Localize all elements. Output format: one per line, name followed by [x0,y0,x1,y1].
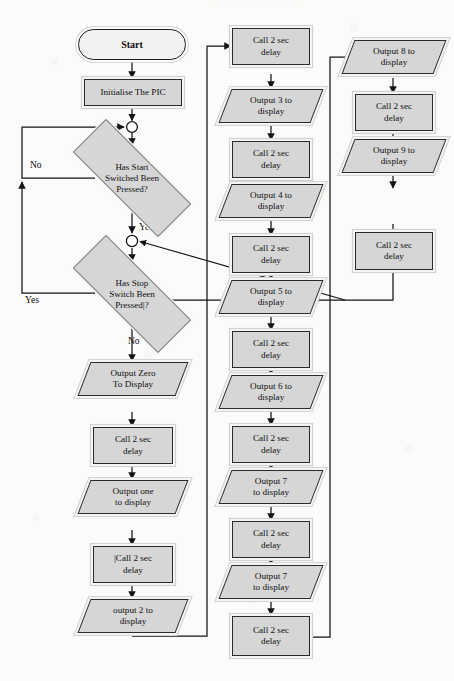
delay-middle-last-line2: delay [261,636,281,646]
delay-e-line2: delay [261,255,281,265]
node-output-six-label: Output 6 to display [248,381,294,404]
delay-a-line2: delay [123,446,143,456]
output-one-line2: to display [115,497,151,507]
node-output-one[interactable]: Output one to display [84,480,182,514]
junction-node-1 [127,122,138,133]
node-delay-b[interactable]: |Call 2 sec delay [93,546,173,583]
delay-i-line1: Call 2 sec [376,101,412,111]
node-decision-stop-switch-label: Has Stop Switch Been Pressed|? [107,278,157,311]
node-output-four-label: Output 4 to display [248,190,294,213]
node-delay-i-label: Call 2 sec delay [374,101,414,124]
node-delay-middle-last-label: Call 2 sec delay [251,625,291,648]
node-output-eight[interactable]: Output 8 to display [348,40,440,74]
node-decision-stop-switch[interactable]: Has Stop Switch Been Pressed|? [47,261,217,327]
node-delay-g[interactable]: Call 2 sec delay [232,426,310,463]
delay-c-line2: delay [261,47,281,57]
node-delay-c[interactable]: Call 2 sec delay [232,28,310,65]
node-delay-f-label: Call 2 sec delay [251,338,291,361]
output-seven-line2: to display [253,487,289,497]
output-seven-b-line2: to display [253,582,289,592]
output-seven-b-line1: Output 7 [255,571,287,581]
node-delay-a-label: Call 2 sec delay [113,434,153,457]
node-delay-d-label: Call 2 sec delay [251,148,291,171]
decision-start-line2: Switched Been [105,173,159,183]
delay-f-line1: Call 2 sec [253,338,289,348]
node-delay-j[interactable]: Call 2 sec delay [355,232,433,270]
edge-label-start-no: No [30,160,42,170]
node-decision-start-switch[interactable]: Has Start Switched Been Pressed? [47,145,217,211]
decision-start-line3: Pressed? [116,184,148,194]
node-delay-i[interactable]: Call 2 sec delay [355,94,433,131]
output-two-line1: output 2 to [113,605,153,615]
delay-d-line2: delay [261,160,281,170]
output-nine-line2: display [381,156,408,166]
output-four-line2: display [258,201,285,211]
node-output-seven[interactable]: Output 7 to display [225,470,317,504]
node-output-five[interactable]: Output 5 to display [225,280,317,314]
junction-node-2 [126,235,137,246]
node-decision-start-switch-label: Has Start Switched Been Pressed? [103,162,161,195]
flowchart-page: - - -- - ---- -- - - --- -- - [0,0,454,681]
output-four-line1: Output 4 to [250,190,292,200]
node-initialise-pic[interactable]: Initialise The PIC [84,79,182,106]
delay-b-line2: delay [123,565,143,575]
output-three-line2: display [258,106,285,116]
node-delay-g-label: Call 2 sec delay [251,433,291,456]
node-start[interactable]: Start [78,29,186,60]
delay-g-line1: Call 2 sec [253,433,289,443]
decision-stop-line1: Has Stop [116,278,149,288]
node-delay-d[interactable]: Call 2 sec delay [232,141,310,178]
node-output-five-label: Output 5 to display [248,286,294,309]
node-output-seven-b[interactable]: Output 7 to display [225,565,317,599]
node-output-seven-label: Output 7 to display [251,476,291,499]
decision-stop-line3: Pressed|? [115,300,148,310]
output-zero-line1: Output Zero [110,368,155,378]
output-two-line2: display [120,616,147,626]
bleed-through-text: - - -- - ---- -- - - --- -- - [214,2,299,11]
output-three-line1: Output 3 to [250,95,292,105]
node-delay-f[interactable]: Call 2 sec delay [232,331,310,368]
node-delay-e-label: Call 2 sec delay [251,243,291,266]
node-delay-c-label: Call 2 sec delay [251,35,291,58]
delay-f-line2: delay [261,350,281,360]
delay-middle-last-line1: Call 2 sec [253,625,289,635]
node-start-label: Start [119,39,145,51]
node-delay-h-label: Call 2 sec delay [251,528,291,551]
edge-label-stop-no: No [128,336,140,346]
node-output-four[interactable]: Output 4 to display [225,184,317,218]
node-output-zero-label: Output Zero To Display [108,368,157,391]
node-output-two-label: output 2 to display [111,605,155,628]
delay-c-line1: Call 2 sec [253,35,289,45]
output-five-line2: display [258,297,285,307]
node-delay-h[interactable]: Call 2 sec delay [232,521,310,558]
delay-b-line1: |Call 2 sec [114,553,152,563]
delay-i-line2: delay [384,113,404,123]
node-output-nine-label: Output 9 to display [371,145,417,168]
output-zero-line2: To Display [113,379,153,389]
output-nine-line1: Output 9 to [373,145,415,155]
node-output-three-label: Output 3 to display [248,95,294,118]
node-output-two[interactable]: output 2 to display [84,599,182,633]
node-delay-b-label: |Call 2 sec delay [112,553,154,576]
node-output-zero[interactable]: Output Zero To Display [84,362,182,396]
delay-e-line1: Call 2 sec [253,243,289,253]
delay-d-line1: Call 2 sec [253,148,289,158]
node-output-eight-label: Output 8 to display [371,46,417,69]
delay-g-line2: delay [261,445,281,455]
delay-a-line1: Call 2 sec [115,434,151,444]
node-output-three[interactable]: Output 3 to display [225,89,317,123]
output-eight-line1: Output 8 to [373,46,415,56]
decision-start-line1: Has Start [115,162,148,172]
delay-j-line2: delay [384,251,404,261]
node-delay-e[interactable]: Call 2 sec delay [232,236,310,273]
node-output-six[interactable]: Output 6 to display [225,375,317,409]
delay-h-line1: Call 2 sec [253,528,289,538]
node-initialise-pic-label: Initialise The PIC [98,87,167,99]
node-output-nine[interactable]: Output 9 to display [348,139,440,173]
edge-label-stop-yes: Yes [25,295,39,305]
delay-j-line1: Call 2 sec [376,240,412,250]
node-output-one-label: Output one to display [110,486,155,509]
node-delay-a[interactable]: Call 2 sec delay [93,427,173,464]
node-delay-middle-last[interactable]: Call 2 sec delay [232,616,310,656]
output-eight-line2: display [381,57,408,67]
